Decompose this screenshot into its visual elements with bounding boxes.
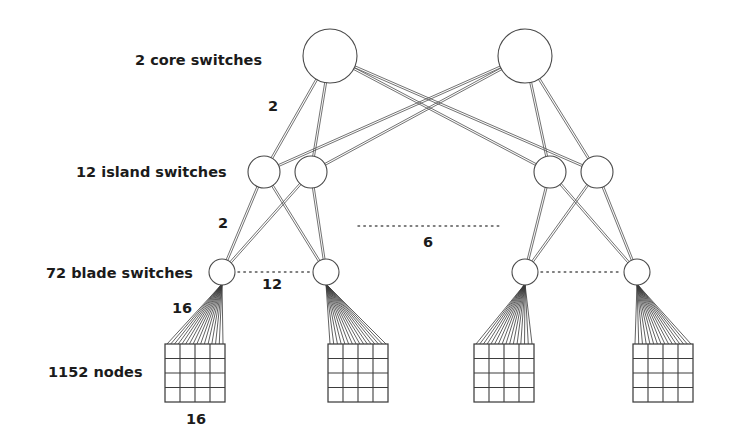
island-to-blade-link — [527, 186, 547, 260]
island-to-blade-link — [559, 183, 630, 264]
link-strand — [530, 82, 546, 158]
island-to-blade-count: 2 — [218, 215, 228, 231]
link-strand — [325, 69, 503, 165]
blade-switch[interactable] — [209, 259, 235, 285]
link-strand — [353, 67, 537, 164]
island-switch[interactable] — [295, 156, 327, 188]
node-grid-width-count: 16 — [186, 411, 206, 427]
island-switch[interactable] — [534, 156, 566, 188]
node-uplink-count: 16 — [172, 300, 192, 316]
blade-switch[interactable] — [313, 259, 339, 285]
core-to-island-link — [530, 81, 548, 157]
link-strand — [324, 68, 502, 164]
link-strand — [271, 185, 319, 262]
uplink-strand — [525, 284, 532, 344]
uplink-strand — [637, 284, 661, 344]
island-group-count: 6 — [423, 234, 433, 250]
node-uplink-fan — [476, 284, 532, 344]
island-switch[interactable] — [581, 156, 613, 188]
node-fan-layer — [167, 284, 691, 344]
uplink-strand — [197, 284, 222, 344]
uplink-strand — [637, 284, 676, 344]
link-strand — [559, 184, 628, 264]
island-to-blade-link — [531, 184, 589, 263]
tier-label-core: 2 core switches — [135, 52, 262, 68]
island-to-blade-link — [312, 187, 325, 261]
tier-label-blade: 72 blade switches — [46, 265, 193, 281]
link-strand — [561, 183, 630, 263]
uplink-strand — [222, 284, 223, 344]
blade-group-count: 12 — [262, 276, 282, 292]
uplink-strand — [193, 284, 222, 344]
node-grid-2 — [328, 344, 388, 402]
uplink-strand — [326, 284, 386, 344]
uplink-strand — [326, 284, 360, 344]
uplink-strand — [495, 284, 525, 344]
uplink-strand — [326, 284, 356, 344]
uplink-strand — [491, 284, 525, 344]
tier-label-island: 12 island switches — [76, 164, 227, 180]
link-strand — [312, 187, 323, 260]
link-strand — [226, 185, 258, 260]
island-to-blade-link — [271, 184, 320, 262]
network-topology-diagram: 2 core switches12 island switches72 blad… — [0, 0, 731, 442]
link-strand — [533, 185, 589, 263]
island-switch[interactable] — [248, 156, 280, 188]
node-grid-3 — [474, 344, 534, 402]
uplink-strand — [635, 284, 637, 344]
uplink-strand — [525, 284, 528, 344]
topology-canvas: 2 core switches12 island switches72 blad… — [0, 0, 731, 442]
core-to-island-link — [324, 68, 503, 166]
core-to-island-link — [353, 67, 538, 166]
node-grid-layer — [165, 344, 693, 402]
link-strand — [272, 79, 318, 159]
core-to-island-count: 2 — [268, 98, 278, 114]
island-to-blade-link — [229, 183, 301, 264]
link-strand — [540, 78, 590, 159]
blade-switch[interactable] — [624, 259, 650, 285]
link-strand — [531, 184, 587, 262]
core-to-island-link — [271, 78, 318, 159]
node-uplink-fan — [635, 284, 691, 344]
link-strand — [312, 82, 324, 158]
island-to-blade-link — [602, 186, 634, 262]
core-switch[interactable] — [303, 29, 357, 83]
link-strand — [314, 187, 325, 260]
link-strand — [229, 183, 300, 263]
node-grid-4 — [633, 344, 693, 402]
link-strand — [529, 187, 547, 261]
core-switch[interactable] — [498, 29, 552, 83]
node-uplink-fan — [326, 284, 386, 344]
link-strand — [271, 78, 317, 158]
blade-switch[interactable] — [512, 259, 538, 285]
tier-label-nodes: 1152 nodes — [48, 364, 143, 380]
link-strand — [353, 69, 537, 166]
node-grid-1 — [165, 344, 225, 402]
